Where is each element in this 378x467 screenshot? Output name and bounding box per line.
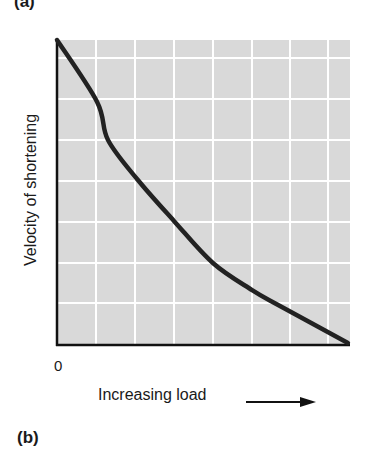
panel-label-b: (b)	[17, 428, 39, 448]
origin-tick-label: 0	[54, 357, 62, 374]
arrow-icon	[246, 397, 316, 407]
x-axis-label: Increasing load	[98, 386, 207, 404]
plot-background	[57, 40, 350, 345]
y-axis-label: Velocity of shortening	[22, 114, 40, 266]
